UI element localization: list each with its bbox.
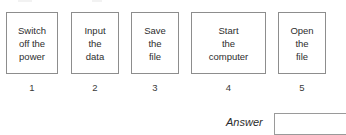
step-number-3: 3 xyxy=(131,80,179,96)
answer-row: Answer xyxy=(0,112,342,135)
step-text-line: Switch xyxy=(18,24,46,37)
step-text-line: file xyxy=(296,50,308,63)
scan-edge-artifact xyxy=(0,0,342,3)
step-text-line: data xyxy=(86,50,105,63)
step-number-4: 4 xyxy=(191,80,266,96)
step-text-line: Save xyxy=(144,24,166,37)
answer-input[interactable] xyxy=(274,113,346,135)
step-text-line: the xyxy=(148,37,161,50)
step-box-body: Startthecomputer xyxy=(191,12,266,74)
step-box-2[interactable]: Inputthedata xyxy=(71,12,119,74)
step-number-1: 1 xyxy=(6,80,58,96)
step-box-body: Savethefile xyxy=(131,12,179,74)
step-text-line: Open xyxy=(290,24,313,37)
step-box-body: Inputthedata xyxy=(71,12,119,74)
step-box-body: Switchoff thepower xyxy=(6,12,58,74)
step-number-2: 2 xyxy=(71,80,119,96)
step-number-5: 5 xyxy=(278,80,326,96)
step-boxes-row: Switchoff thepowerInputthedataSavethefil… xyxy=(0,12,342,74)
step-box-1[interactable]: Switchoff thepower xyxy=(6,12,58,74)
step-text-line: power xyxy=(19,50,45,63)
step-box-5[interactable]: Openthefile xyxy=(278,12,326,74)
step-text-line: the xyxy=(222,37,235,50)
step-text-line: off the xyxy=(19,37,45,50)
step-text-line: file xyxy=(149,50,161,63)
step-text-line: the xyxy=(295,37,308,50)
answer-label: Answer xyxy=(226,115,270,130)
step-text-line: the xyxy=(88,37,101,50)
step-text-line: Input xyxy=(84,24,105,37)
step-box-body: Openthefile xyxy=(278,12,326,74)
step-numbers-row: 12345 xyxy=(0,80,342,96)
step-box-3[interactable]: Savethefile xyxy=(131,12,179,74)
step-text-line: Start xyxy=(218,24,238,37)
step-text-line: computer xyxy=(209,50,249,63)
step-box-4[interactable]: Startthecomputer xyxy=(191,12,266,74)
